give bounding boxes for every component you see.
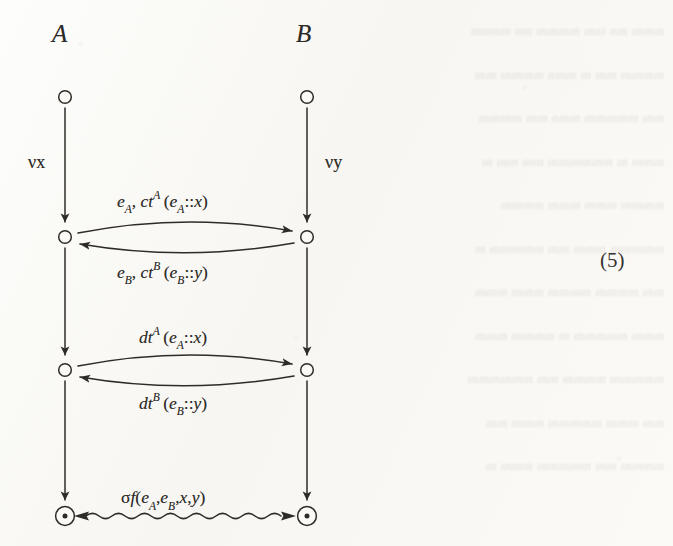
- commitack-fn-sup: B: [153, 260, 160, 272]
- decommit-fn-sup: A: [153, 325, 160, 337]
- commit-fn: ct: [141, 191, 154, 211]
- edge-label-commit-ack-exchange: eB, ctB (eB::y): [117, 261, 208, 284]
- node-a-end-dot: [63, 514, 68, 519]
- decommit-open-paren: (: [160, 327, 169, 347]
- edge-label-output-agreement: σf(eA,eB,x,y): [121, 487, 205, 510]
- commit-close-paren: ): [202, 191, 208, 211]
- restriction-label-nu-y: νy: [325, 152, 342, 173]
- commitack-msg-name: eB: [117, 262, 132, 282]
- commit-arg-sub: A: [177, 203, 184, 215]
- node-a-commit: [59, 231, 72, 244]
- edge-label-decommit-ack-exchange: dtB (eB::y): [139, 392, 207, 415]
- decommit-close-paren: ): [201, 327, 207, 347]
- commit-arg-tail: ::: [184, 191, 194, 211]
- commit-msg-name: eA: [117, 191, 132, 211]
- decommit-arg-sub: A: [177, 339, 184, 351]
- commitack-arg-var: y: [194, 262, 202, 282]
- restriction-label-nu-x: νx: [28, 152, 45, 173]
- decommit-arg-tail: ::: [184, 327, 194, 347]
- decommitack-fn-sup: B: [153, 391, 160, 403]
- decommit-arg: e: [169, 327, 177, 347]
- decommitack-arg: e: [169, 393, 177, 413]
- commitack-close-paren: ): [202, 262, 208, 282]
- decommitack-arg-tail: ::: [184, 393, 194, 413]
- agreement-arg2: e: [160, 487, 168, 507]
- node-a-decommit: [59, 364, 72, 377]
- edge-label-decommit-exchange: dtA (eA::x): [139, 326, 207, 349]
- protocol-sequence-diagram: A B νx νy eA, ctA (eA::x) eB, ctB (eB::y…: [0, 0, 673, 546]
- commitack-fn: ct: [141, 262, 154, 282]
- commit-fn-sup: A: [153, 189, 160, 201]
- column-header-a: A: [52, 20, 67, 48]
- decommitack-fn: dt: [139, 393, 153, 413]
- arrow-decommit-b-to-a: [80, 376, 294, 386]
- decommitack-open-paren: (: [160, 393, 169, 413]
- edge-label-commit-exchange: eA, ctA (eA::x): [117, 190, 208, 213]
- wavy-agreement-line: [86, 513, 281, 518]
- commitack-arg-sub: B: [177, 274, 184, 286]
- arrow-decommit-a-to-b: [78, 355, 292, 366]
- commit-open-paren: (: [160, 191, 169, 211]
- node-b-end-dot: [305, 514, 310, 519]
- diagram-canvas: [0, 0, 673, 546]
- decommitack-close-paren: ): [201, 393, 207, 413]
- agreement-arg1: e: [141, 487, 149, 507]
- commit-msg-name-sub: A: [125, 203, 132, 215]
- equation-number: (5): [600, 248, 625, 273]
- wavy-arrowhead-right: [281, 511, 296, 520]
- commitack-arg-tail: ::: [184, 262, 194, 282]
- node-b-commit: [301, 231, 314, 244]
- agreement-arg2-sub: B: [168, 500, 175, 512]
- commit-arg-var: x: [194, 191, 202, 211]
- commitack-open-paren: (: [160, 262, 169, 282]
- arrow-commit-b-to-a: [80, 243, 294, 253]
- commitack-msg-name-sub: B: [125, 274, 132, 286]
- column-header-b: B: [296, 20, 311, 48]
- decommit-fn: dt: [139, 327, 153, 347]
- commitack-comma: ,: [132, 262, 141, 282]
- node-b-start: [301, 91, 314, 104]
- agreement-close-paren: ): [199, 487, 205, 507]
- node-b-decommit: [301, 364, 314, 377]
- agreement-arg1-sub: A: [149, 500, 156, 512]
- arrow-commit-a-to-b: [78, 222, 292, 233]
- node-a-start: [59, 91, 72, 104]
- decommitack-arg-sub: B: [177, 405, 184, 417]
- commit-comma: ,: [132, 191, 141, 211]
